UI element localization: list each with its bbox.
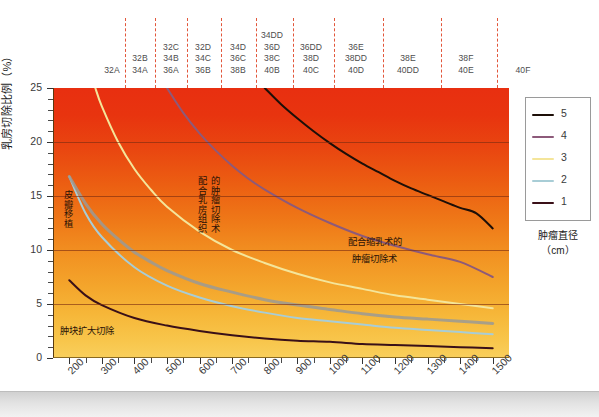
bottom-strip <box>0 391 599 417</box>
curve-5 <box>265 88 493 228</box>
y-tick-minor <box>48 315 53 316</box>
bra-size-group-8: 38E40DD <box>382 53 434 76</box>
bra-size-label: 38DD <box>330 53 382 65</box>
y-axis-label: 5 <box>18 297 42 309</box>
legend-entry-label: 5 <box>561 107 567 119</box>
bra-size-label: 34DD <box>246 30 298 42</box>
x-tick-minor <box>346 358 347 363</box>
y-tick-minor <box>48 293 53 294</box>
curve-1 <box>69 280 492 348</box>
x-tick-minor <box>183 358 184 363</box>
y-tick-minor <box>48 336 53 337</box>
y-tick-minor <box>48 272 53 273</box>
y-tick-minor <box>48 218 53 219</box>
x-tick-minor <box>444 358 445 363</box>
y-tick-0 <box>47 358 53 359</box>
legend-entry-2[interactable]: 2 <box>532 172 586 190</box>
y-axis-title: 乳房切除比例（%） <box>0 50 14 150</box>
legend-entry-3[interactable]: 3 <box>532 150 586 168</box>
gridline-y-20 <box>53 142 509 143</box>
annotation-reduction-line1: 配合缩乳术的 <box>348 236 402 248</box>
curves-svg <box>53 88 509 358</box>
legend-swatch-line <box>532 158 554 160</box>
bra-size-label: 40F <box>497 65 549 77</box>
x-tick-minor <box>281 358 282 363</box>
bra-size-group-7: 36E38DD40D <box>330 42 382 77</box>
legend-swatch-line <box>532 180 554 182</box>
y-tick-minor <box>48 185 53 186</box>
legend: 54321 <box>525 97 591 221</box>
y-axis-label: 15 <box>18 189 42 201</box>
y-tick-minor <box>48 174 53 175</box>
bra-size-label: 40D <box>330 65 382 77</box>
bra-size-label: 38E <box>382 53 434 65</box>
gridline-y-15 <box>53 196 509 197</box>
y-tick-minor <box>48 164 53 165</box>
bra-size-label: 40DD <box>382 65 434 77</box>
y-tick-minor <box>48 261 53 262</box>
bra-size-group-9: 38F40E <box>440 53 492 76</box>
y-tick-minor <box>48 110 53 111</box>
legend-entry-label: 2 <box>561 173 567 185</box>
plot-area <box>53 88 509 358</box>
bra-size-label: 40E <box>440 65 492 77</box>
y-tick-25 <box>47 88 53 89</box>
annotation-breast-tissue-line1: 配合乳房组织 <box>196 176 208 233</box>
x-tick-minor <box>151 358 152 363</box>
y-tick-minor <box>48 120 53 121</box>
bra-size-band: 32A32B34A32C34B36A32D34C36B34D36C38B34DD… <box>0 0 599 88</box>
legend-entry-label: 1 <box>561 195 567 207</box>
legend-title-line2: （cm） <box>518 243 598 258</box>
x-tick-minor <box>314 358 315 363</box>
bra-size-group-10: 40F <box>497 65 549 77</box>
legend-title: 肿瘤直径 （cm） <box>518 228 598 258</box>
legend-entry-label: 4 <box>561 129 567 141</box>
x-tick-minor <box>476 358 477 363</box>
y-tick-minor <box>48 228 53 229</box>
legend-entry-1[interactable]: 1 <box>532 194 586 212</box>
gridline-y-10 <box>53 250 509 251</box>
bra-size-label: 36E <box>330 42 382 54</box>
y-tick-minor <box>48 239 53 240</box>
y-tick-minor <box>48 326 53 327</box>
y-tick-5 <box>47 304 53 305</box>
y-axis-label: 0 <box>18 351 42 363</box>
y-tick-minor <box>48 131 53 132</box>
y-axis-label: 10 <box>18 243 42 255</box>
annotation-flap: 皮瓣移植 <box>62 190 74 228</box>
x-tick-minor <box>248 358 249 363</box>
annotation-reduction-line2: 肿瘤切除术 <box>352 253 397 265</box>
gridline-y-5 <box>53 304 509 305</box>
legend-swatch-line <box>532 114 554 116</box>
x-tick-minor <box>118 358 119 363</box>
y-tick-minor <box>48 282 53 283</box>
y-tick-10 <box>47 250 53 251</box>
size-divider-9 <box>497 18 498 88</box>
y-axis-label: 20 <box>18 135 42 147</box>
x-tick-minor <box>411 358 412 363</box>
y-tick-15 <box>47 196 53 197</box>
y-tick-minor <box>48 153 53 154</box>
x-tick-minor <box>216 358 217 363</box>
legend-entry-label: 3 <box>561 151 567 163</box>
y-tick-minor <box>48 207 53 208</box>
legend-swatch-line <box>532 136 554 138</box>
legend-swatch-line <box>532 202 554 204</box>
annotation-lumpectomy: 肿块扩大切除 <box>60 325 114 337</box>
y-tick-20 <box>47 142 53 143</box>
bra-size-label: 38F <box>440 53 492 65</box>
y-tick-minor <box>48 347 53 348</box>
y-tick-minor <box>48 99 53 100</box>
chart-root: 32A32B34A32C34B36A32D34C36B34D36C38B34DD… <box>0 0 599 417</box>
y-axis-label: 25 <box>18 81 42 93</box>
legend-title-line1: 肿瘤直径 <box>518 228 598 243</box>
legend-entry-5[interactable]: 5 <box>532 106 586 124</box>
legend-entry-4[interactable]: 4 <box>532 128 586 146</box>
x-tick-minor <box>379 358 380 363</box>
x-tick-minor <box>86 358 87 363</box>
annotation-breast-tissue-line2: 的肿瘤切除术 <box>209 176 221 233</box>
